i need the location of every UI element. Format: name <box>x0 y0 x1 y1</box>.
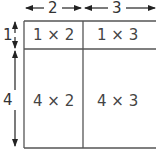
cell-1x2: 1 × 2 <box>33 28 74 43</box>
top-dimension-label-2: 2 <box>48 1 58 16</box>
left-dimension-label-4: 4 <box>3 93 13 108</box>
top-dimension-label-3: 3 <box>112 1 122 16</box>
cell-4x2: 4 × 2 <box>33 94 74 109</box>
left-dimension-label-1: 1 <box>3 28 13 43</box>
area-model-diagram <box>0 0 156 154</box>
cell-1x3: 1 × 3 <box>97 28 138 43</box>
cell-4x3: 4 × 3 <box>97 94 138 109</box>
